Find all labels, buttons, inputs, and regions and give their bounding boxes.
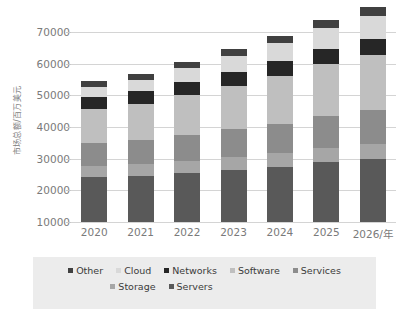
bar-segment-cloud[interactable] [360, 16, 386, 40]
legend-swatch-icon [116, 268, 121, 273]
bar-segment-services[interactable] [128, 140, 154, 164]
bar-segment-servers[interactable] [313, 162, 339, 222]
bar-segment-other[interactable] [221, 49, 247, 56]
bar-segment-cloud[interactable] [267, 43, 293, 61]
bar-segment-software[interactable] [174, 95, 200, 135]
bar-segment-networks[interactable] [267, 61, 293, 75]
bar-segment-services[interactable] [174, 135, 200, 161]
bar-stack[interactable] [267, 36, 293, 222]
legend-swatch-icon [293, 268, 298, 273]
bar-segment-servers[interactable] [81, 177, 107, 222]
legend-swatch-icon [169, 284, 174, 289]
legend: OtherCloudNetworksSoftwareServices Stora… [33, 257, 376, 309]
bar-segment-services[interactable] [267, 124, 293, 154]
legend-item-services[interactable]: Services [293, 265, 341, 276]
bar-segment-networks[interactable] [81, 97, 107, 109]
bar-segment-software[interactable] [128, 104, 154, 140]
bar-segment-networks[interactable] [221, 72, 247, 86]
bar-group: 2020202120222023202420252026/年 [71, 0, 396, 250]
bar-segment-networks[interactable] [313, 49, 339, 64]
bar-segment-cloud[interactable] [81, 87, 107, 97]
legend-swatch-icon [68, 268, 73, 273]
legend-item-software[interactable]: Software [230, 265, 280, 276]
plot-area: 市场总额/百万美元 700006000050000400003000020000… [0, 0, 408, 250]
bar-segment-services[interactable] [221, 129, 247, 157]
bar-segment-servers[interactable] [360, 159, 386, 222]
legend-item-label: Other [76, 265, 103, 276]
bar-segment-storage[interactable] [267, 153, 293, 167]
y-axis-tick-label: 40000 [28, 121, 70, 133]
bar-segment-software[interactable] [313, 64, 339, 116]
legend-swatch-icon [230, 268, 235, 273]
bar-segment-storage[interactable] [360, 144, 386, 159]
legend-item-networks[interactable]: Networks [164, 265, 217, 276]
bar-segment-storage[interactable] [81, 166, 107, 177]
bar-segment-networks[interactable] [174, 82, 200, 95]
bar-segment-cloud[interactable] [313, 28, 339, 49]
bar-segment-cloud[interactable] [174, 68, 200, 82]
legend-row-1: OtherCloudNetworksSoftwareServices [33, 257, 376, 276]
x-axis-tick-label: 2026/年 [343, 226, 403, 241]
legend-item-label: Servers [177, 281, 213, 292]
legend-swatch-icon [110, 284, 115, 289]
bar-segment-cloud[interactable] [128, 80, 154, 91]
y-axis-tick-label: 30000 [28, 153, 70, 165]
y-axis-ticks: 70000600005000040000300002000010000 [16, 0, 70, 250]
legend-item-label: Software [238, 265, 280, 276]
legend-item-cloud[interactable]: Cloud [116, 265, 151, 276]
bar-segment-other[interactable] [360, 7, 386, 15]
legend-item-servers[interactable]: Servers [169, 281, 213, 292]
bar-segment-storage[interactable] [221, 157, 247, 170]
bar-segment-networks[interactable] [360, 39, 386, 55]
bar-stack[interactable] [313, 20, 339, 222]
bar-segment-networks[interactable] [128, 91, 154, 104]
bar-segment-servers[interactable] [267, 167, 293, 222]
bar-segment-cloud[interactable] [221, 56, 247, 72]
bar-stack[interactable] [128, 74, 154, 222]
bar-segment-services[interactable] [313, 116, 339, 148]
bar-segment-servers[interactable] [221, 170, 247, 222]
bar-segment-software[interactable] [81, 109, 107, 143]
bar-segment-software[interactable] [221, 86, 247, 130]
legend-item-label: Storage [118, 281, 155, 292]
bar-segment-servers[interactable] [174, 173, 200, 222]
bar-stack[interactable] [174, 62, 200, 223]
bar-stack[interactable] [81, 81, 107, 222]
y-axis-tick-label: 60000 [28, 58, 70, 70]
legend-item-label: Cloud [124, 265, 151, 276]
bar-segment-services[interactable] [81, 143, 107, 166]
bar-segment-storage[interactable] [174, 161, 200, 173]
bar-segment-other[interactable] [267, 36, 293, 44]
bar-segment-storage[interactable] [128, 164, 154, 175]
y-axis-tick-label: 50000 [28, 89, 70, 101]
bar-segment-servers[interactable] [128, 176, 154, 222]
y-axis-tick-label: 20000 [28, 184, 70, 196]
legend-item-label: Services [301, 265, 341, 276]
bar-segment-other[interactable] [313, 20, 339, 28]
bar-stack[interactable] [221, 49, 247, 222]
bar-segment-storage[interactable] [313, 148, 339, 163]
legend-item-label: Networks [172, 265, 217, 276]
legend-item-other[interactable]: Other [68, 265, 103, 276]
bar-stack[interactable] [360, 7, 386, 222]
legend-swatch-icon [164, 268, 169, 273]
bar-segment-services[interactable] [360, 110, 386, 144]
legend-item-storage[interactable]: Storage [110, 281, 155, 292]
legend-row-2: StorageServers [33, 276, 376, 292]
bar-segment-software[interactable] [267, 76, 293, 124]
bar-segment-software[interactable] [360, 55, 386, 110]
chart-root: 市场总额/百万美元 700006000050000400003000020000… [0, 0, 408, 319]
bar-segment-other[interactable] [174, 62, 200, 69]
y-axis-tick-label: 70000 [28, 26, 70, 38]
